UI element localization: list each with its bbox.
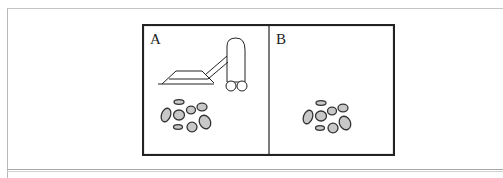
dirt-pile-icon-a: [159, 100, 213, 132]
page-frame-top-rule: [7, 8, 503, 9]
panel-a-label: A: [150, 31, 161, 48]
page-frame-bottom-rule-2: [7, 171, 503, 172]
page-frame-bottom-rule: [7, 169, 503, 170]
dirt-pile-icon-b: [301, 101, 353, 133]
panel-b-label: B: [276, 31, 286, 48]
vacuum-figure: A B: [142, 24, 395, 156]
figure-canvas: [142, 24, 395, 156]
page-frame-left-rule: [7, 8, 8, 178]
vacuum-cleaner-icon: [158, 38, 247, 91]
